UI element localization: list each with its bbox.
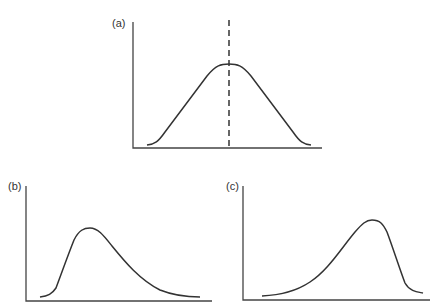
panel-a-axes xyxy=(133,22,322,148)
panel-b-axes xyxy=(26,186,212,301)
panel-c xyxy=(243,186,430,300)
panel-b-right-skewed-curve xyxy=(40,228,200,297)
figure-canvas xyxy=(0,0,439,307)
panel-a xyxy=(133,20,322,150)
panel-b xyxy=(26,186,212,301)
panel-c-left-skewed-curve xyxy=(262,220,423,296)
panel-c-label: (c) xyxy=(226,180,239,192)
panel-a-label: (a) xyxy=(112,17,125,29)
panel-b-label: (b) xyxy=(8,180,21,192)
panel-c-axes xyxy=(243,186,430,300)
